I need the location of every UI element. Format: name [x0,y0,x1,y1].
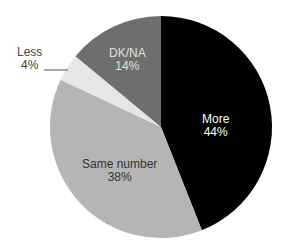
pie-chart [0,0,293,250]
label-less: Less 4% [17,46,42,72]
label-dkna: DK/NA 14% [109,47,146,73]
label-more: More 44% [202,113,229,139]
label-same-number: Same number 38% [82,158,157,184]
